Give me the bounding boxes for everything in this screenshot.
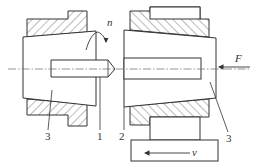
right-housing-top-step <box>150 7 200 19</box>
base-slide-plate <box>131 140 218 161</box>
label-part-3-left: 3 <box>45 131 51 142</box>
label-part-1: 1 <box>97 131 103 142</box>
right-pedestal <box>150 117 200 140</box>
label-velocity-v: v <box>192 147 197 158</box>
workpiece-rod <box>51 60 115 77</box>
label-part-3-right: 3 <box>226 133 232 144</box>
leader-line-3-right <box>210 82 228 132</box>
label-part-2: 2 <box>119 131 125 142</box>
tool-rod <box>124 58 201 79</box>
friction-welding-diagram <box>0 0 253 168</box>
label-force-F: F <box>235 53 242 64</box>
label-rotation-n: n <box>107 17 113 28</box>
left-chuck-assembly <box>23 11 115 130</box>
